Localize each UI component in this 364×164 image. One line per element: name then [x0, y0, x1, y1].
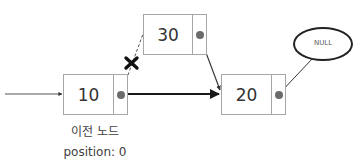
- linked-list-diagram: 30 10 20 NULL 이전 노드 position: 0: [0, 0, 364, 164]
- pointer-dot-icon: [275, 91, 283, 99]
- position-label: position: 0: [45, 142, 145, 162]
- x-mark-icon: [126, 58, 137, 68]
- node-20: 20: [221, 74, 286, 115]
- node-pointer-cell: [193, 15, 206, 54]
- node-pointer-cell: [114, 75, 127, 114]
- prev-node-label: 이전 노드: [45, 122, 145, 142]
- node-value: 30: [144, 15, 193, 54]
- node-value: 10: [64, 75, 114, 114]
- node-pointer-cell: [272, 75, 285, 114]
- null-label: NULL: [294, 39, 352, 47]
- pointer-dot-icon: [117, 91, 125, 99]
- pointer-dot-icon: [196, 31, 204, 39]
- node-10: 10: [63, 74, 128, 115]
- node-30: 30: [143, 14, 207, 55]
- node-value: 20: [222, 75, 272, 114]
